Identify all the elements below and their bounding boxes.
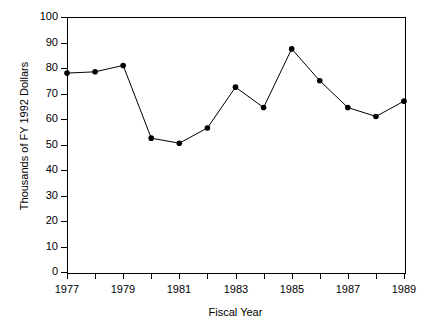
x-axis-tick [123,273,124,279]
y-axis-tick [61,145,67,146]
y-axis-tick [61,247,67,248]
x-axis-tick [179,273,180,279]
y-axis-tick-label-text: 10 [6,241,58,252]
y-axis-tick-label-text: 100 [6,11,58,22]
y-axis-tick [61,43,67,44]
x-axis-tick-label-text: 1979 [93,283,153,296]
y-axis-tick-label-text: 70 [6,88,58,99]
y-axis-tick [61,94,67,95]
x-axis-tick-label: 1989 [374,283,434,296]
y-axis-tick [61,68,67,69]
x-axis-tick-label: 1977 [37,283,97,296]
y-axis-tick-label-text: 90 [6,37,58,48]
x-axis-tick [320,273,321,279]
x-axis-tick [348,273,349,279]
y-axis-tick-label: 60 [0,113,58,124]
x-axis-tick-label: 1983 [206,283,266,296]
y-axis-tick-label-text: 0 [6,266,58,277]
x-axis-tick-label-text: 1985 [262,283,322,296]
x-axis-tick-label: 1979 [93,283,153,296]
y-axis-tick-label: 70 [0,88,58,99]
y-axis-tick-label: 80 [0,62,58,73]
x-axis-tick-label-text: 1977 [37,283,97,296]
x-axis-title: Fiscal Year [67,305,404,319]
x-axis-tick-label-text: 1981 [149,283,209,296]
x-axis-tick-label: 1981 [149,283,209,296]
x-axis-tick [292,273,293,279]
x-axis-tick [264,273,265,279]
x-axis-tick [207,273,208,279]
y-axis-tick-label: 0 [0,266,58,277]
x-axis-tick-label: 1987 [318,283,378,296]
x-axis-tick [67,273,68,279]
x-axis-tick [376,273,377,279]
y-axis-tick [61,119,67,120]
y-axis-tick [61,196,67,197]
y-axis-tick-label: 20 [0,215,58,226]
y-axis-tick-label-text: 60 [6,113,58,124]
y-axis-tick-label-text: 30 [6,190,58,201]
y-axis-tick [61,17,67,18]
y-axis-tick [61,221,67,222]
y-axis-tick-label: 10 [0,241,58,252]
y-axis-tick-label-text: 40 [6,164,58,175]
x-axis-tick-label-text: 1989 [374,283,434,296]
y-axis-tick-label: 50 [0,139,58,150]
x-axis-tick-label: 1985 [262,283,322,296]
x-axis-tick [95,273,96,279]
y-axis-tick-label: 40 [0,164,58,175]
y-axis-tick-label-text: 50 [6,139,58,150]
y-axis-tick-label: 30 [0,190,58,201]
plot-area [67,17,406,274]
y-axis-tick-label-text: 80 [6,62,58,73]
y-axis-tick-label-text: 20 [6,215,58,226]
x-axis-tick [404,273,405,279]
y-axis-tick-label: 90 [0,37,58,48]
x-axis-tick [151,273,152,279]
x-axis-tick-label-text: 1983 [206,283,266,296]
y-axis-tick-label: 100 [0,11,58,22]
y-axis-tick [61,170,67,171]
x-axis-tick [236,273,237,279]
line-chart: Thousands of FY 1992 Dollars 01020304050… [0,0,444,331]
x-axis-tick-label-text: 1987 [318,283,378,296]
